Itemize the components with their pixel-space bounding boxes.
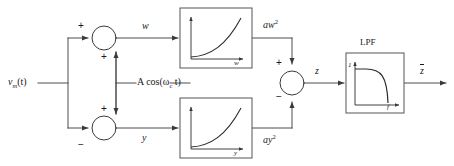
- squarer-bottom-axis-label: y: [234, 150, 237, 157]
- input-signal-label: vm(t): [8, 77, 27, 90]
- lpf-y-axis-label: 1: [348, 62, 352, 69]
- summing-junction-output: [280, 71, 304, 95]
- output-signal-label-z-bar: z: [420, 64, 424, 76]
- lpf-x-axis-label: f: [387, 104, 389, 111]
- summing-junction-bottom: [92, 116, 116, 140]
- signal-label-z: z: [315, 66, 319, 76]
- block-diagram-canvas: vm(t) A cos(ωc t) + + + − + − w y w y aw…: [0, 0, 454, 166]
- signal-label-y: y: [142, 133, 146, 143]
- summer-top-sign-bottom: +: [101, 52, 107, 62]
- signal-label-aw-squared: aw2: [263, 19, 278, 30]
- signal-label-w: w: [142, 21, 149, 31]
- summer-bottom-sign-left: −: [78, 140, 84, 150]
- summer-top-sign-left: +: [78, 21, 84, 31]
- summer-bottom-sign-top: +: [101, 104, 107, 114]
- lpf-block: [346, 53, 404, 113]
- carrier-signal-label: A cos(ωc t): [137, 77, 181, 90]
- lpf-block-title: LPF: [360, 38, 376, 47]
- diagram-vector-layer: [0, 0, 454, 166]
- summer-output-sign-top: +: [276, 58, 282, 68]
- signal-label-ay-squared: ay2: [263, 134, 276, 145]
- summer-output-sign-bottom: −: [276, 92, 282, 102]
- summing-junction-top: [92, 26, 116, 50]
- squarer-block-top: [180, 8, 252, 68]
- squarer-top-axis-label: w: [234, 60, 239, 67]
- squarer-block-bottom: [180, 98, 252, 158]
